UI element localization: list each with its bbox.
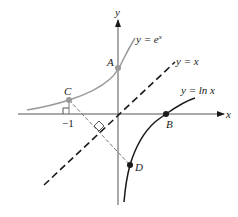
point-a [115,65,121,71]
tick-label-neg-one: −1 [62,117,74,129]
point-d [127,162,133,168]
point-c-label: C [64,85,72,97]
log-curve-label: y = ln x [180,84,215,96]
graph-diagram: x y y = x y = ex y = ln x −1 A B C D [0,0,238,217]
exp-curve [27,38,135,110]
y-axis-label: y [114,6,120,18]
point-c [66,97,72,103]
point-b-label: B [166,118,173,130]
identity-line-label: y = x [175,55,199,67]
x-axis-label: x [225,108,231,120]
right-angle-marker-c [63,108,69,114]
point-d-label: D [134,161,143,173]
exp-curve-label: y = ex [135,33,163,45]
point-a-label: A [106,56,114,68]
point-b [163,111,169,117]
c-d-segment [69,100,130,165]
